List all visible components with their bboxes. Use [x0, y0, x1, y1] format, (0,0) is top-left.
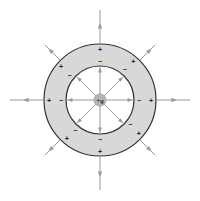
negative-charge-sign: −	[68, 72, 72, 79]
charge-label: +q	[96, 97, 104, 105]
negative-charge-sign: −	[98, 58, 102, 65]
negative-charge-sign: −	[98, 136, 102, 143]
positive-charge-sign: +	[98, 46, 102, 53]
negative-charge-sign: −	[128, 121, 132, 128]
point-charge: +q	[94, 94, 106, 106]
positive-charge-sign: +	[131, 58, 135, 65]
negative-charge-sign: −	[73, 127, 77, 134]
charged-shell-diagram: −−−−−−−− ++++++++ +q	[0, 0, 200, 201]
outer-arrowhead-icon	[23, 98, 29, 102]
positive-charge-sign: +	[137, 130, 141, 137]
negative-charge-sign: −	[137, 97, 141, 104]
outer-field-line	[140, 45, 156, 61]
outer-arrowhead-icon	[98, 23, 102, 29]
positive-charge-sign: +	[59, 63, 63, 70]
positive-charge-sign: +	[98, 148, 102, 155]
negative-charge-sign: −	[59, 97, 63, 104]
outer-field-line	[45, 140, 61, 156]
outer-arrowhead-icon	[98, 171, 102, 177]
positive-charge-sign: +	[149, 97, 153, 104]
negative-charge-sign: −	[123, 66, 127, 73]
positive-charge-sign: +	[47, 97, 51, 104]
outer-arrowhead-icon	[171, 98, 177, 102]
outer-field-line	[140, 140, 156, 156]
outer-field-line	[45, 45, 61, 61]
positive-charge-sign: +	[65, 135, 69, 142]
